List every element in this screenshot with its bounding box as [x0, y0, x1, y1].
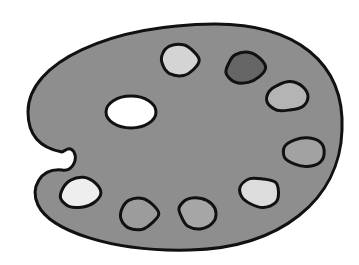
paint-dab [179, 198, 216, 229]
thumb-hole [106, 96, 156, 128]
paint-dab [60, 177, 101, 207]
palette-svg [0, 0, 359, 265]
palette-illustration: Grayscale illustration of a kidney-shape… [0, 0, 359, 265]
paint-dab [283, 138, 324, 167]
